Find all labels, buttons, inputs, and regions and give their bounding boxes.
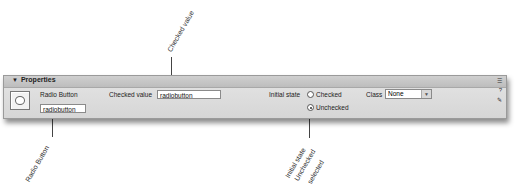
element-name-input[interactable]: radiobutton — [40, 104, 86, 113]
panel-titlebar[interactable]: ▼Properties — [4, 76, 506, 88]
collapse-triangle-icon[interactable]: ▼ — [12, 77, 18, 83]
panel-title: Properties — [21, 76, 56, 83]
panel-title-wrap: ▼Properties — [12, 76, 56, 83]
class-label: Class — [366, 91, 382, 98]
callout-checked-value: Checked value — [166, 9, 195, 53]
class-select-value: None — [388, 90, 404, 97]
initial-state-label: Initial state — [269, 91, 300, 98]
callout-line-initial-state — [309, 116, 310, 138]
element-type-label: Radio Button — [40, 91, 78, 98]
class-select[interactable]: None ▼ — [385, 89, 432, 99]
checked-radio-label: Checked — [316, 91, 342, 98]
unchecked-radio[interactable] — [307, 104, 314, 111]
expand-icon[interactable]: ☰ — [497, 77, 502, 84]
checked-value-label: Checked value — [109, 91, 152, 98]
unchecked-radio-label: Unchecked — [316, 104, 349, 111]
checked-value-input[interactable]: radiobutton — [157, 90, 221, 99]
edit-icon[interactable]: ✎ — [497, 96, 502, 103]
chevron-down-icon: ▼ — [421, 90, 431, 98]
callout-radio-button: Radio Button — [24, 144, 50, 183]
properties-panel: ▼Properties Radio Button radiobutton Che… — [3, 75, 507, 119]
radio-button-icon — [10, 91, 30, 110]
checked-radio[interactable] — [307, 91, 314, 98]
help-icon[interactable]: ? — [499, 87, 502, 93]
